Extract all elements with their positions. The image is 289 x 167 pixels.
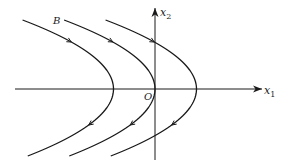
trajectory-label-b: B xyxy=(52,15,60,26)
phase-plane-diagram: x1 x2 O B xyxy=(0,0,289,167)
x2-axis-label: x2 xyxy=(160,6,171,21)
x1-axis-label: x1 xyxy=(264,84,275,99)
trajectory-left xyxy=(23,20,114,156)
origin-label: O xyxy=(144,91,152,102)
trajectory-right xyxy=(106,20,197,156)
trajectory-middle xyxy=(64,20,155,156)
